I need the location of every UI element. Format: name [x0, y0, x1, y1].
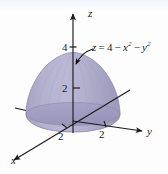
z-tick-label-2: 2: [62, 83, 68, 94]
equation-minus-2: −: [134, 41, 140, 53]
y-tick-label-2: 2: [99, 129, 105, 140]
y-axis-label: y: [147, 126, 152, 137]
equation-lhs: z: [92, 41, 96, 53]
equation-equals: =: [98, 41, 104, 53]
figure-canvas: [0, 0, 168, 174]
paraboloid-figure: z y x 4 2 2 2 z = 4 − x2 − y2: [0, 0, 168, 174]
equation-x-exponent: 2: [128, 40, 132, 48]
x-tick-label-2: 2: [58, 131, 64, 142]
equation-constant: 4: [107, 41, 113, 53]
x-axis-label: x: [11, 155, 16, 166]
z-axis-label: z: [88, 8, 92, 19]
equation-minus-1: −: [115, 41, 121, 53]
equation-y-exponent: 2: [147, 40, 151, 48]
z-tick-label-4: 4: [62, 42, 68, 53]
surface-equation-label: z = 4 − x2 − y2: [92, 41, 150, 53]
